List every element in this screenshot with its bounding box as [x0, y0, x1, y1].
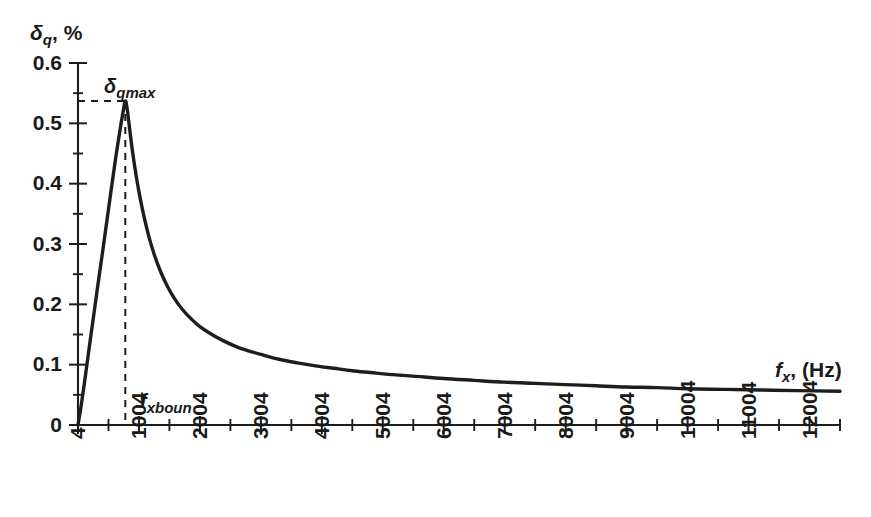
y-tick-label: 0.6 [33, 51, 62, 74]
y-tick-label: 0.3 [33, 232, 62, 255]
y-tick-label: 0.1 [33, 352, 63, 375]
x-tick-label: 9004 [615, 392, 638, 439]
y-tick-label: 0.2 [33, 292, 62, 315]
y-tick-label: 0.5 [33, 111, 63, 134]
chart-figure: 00.10.20.30.40.50.6 41004200430044004500… [0, 0, 871, 517]
x-tick-label: 4 [66, 427, 89, 439]
chart-canvas: 00.10.20.30.40.50.6 41004200430044004500… [0, 0, 871, 517]
x-tick-label: 3004 [249, 392, 272, 439]
y-tick-label: 0.4 [33, 171, 63, 194]
x-tick-label: 8004 [554, 392, 577, 439]
x-tick-label: 4004 [310, 392, 333, 439]
y-tick-label: 0 [50, 413, 62, 436]
axes-group [78, 63, 840, 425]
x-tick-label: 6004 [432, 392, 455, 439]
annotation-delta-q-max: δqmax [104, 75, 156, 101]
data-curve-delta-q [78, 101, 840, 425]
x-axis-title: fx, (Hz) [775, 358, 842, 385]
y-axis-title: δq, % [30, 21, 83, 48]
y-axis-tick-labels: 00.10.20.30.40.50.6 [33, 51, 63, 436]
x-tick-label: 7004 [493, 392, 516, 439]
x-tick-label: 5004 [371, 392, 394, 439]
